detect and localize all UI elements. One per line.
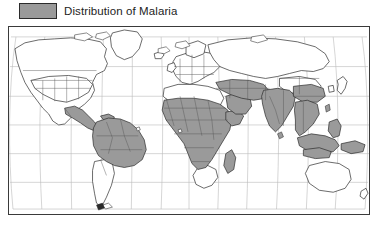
legend-swatch-endemic: [19, 3, 57, 19]
map-legend: Distribution of Malaria: [0, 0, 378, 24]
malaria-distribution-figure: Distribution of Malaria: [0, 0, 378, 231]
world-map: [9, 27, 369, 214]
region-korea: [328, 85, 334, 92]
island-gulf-guinea: [178, 129, 182, 133]
world-map-frame: [8, 26, 370, 215]
legend-label: Distribution of Malaria: [64, 3, 178, 19]
island-atlantic-small: [136, 127, 140, 131]
